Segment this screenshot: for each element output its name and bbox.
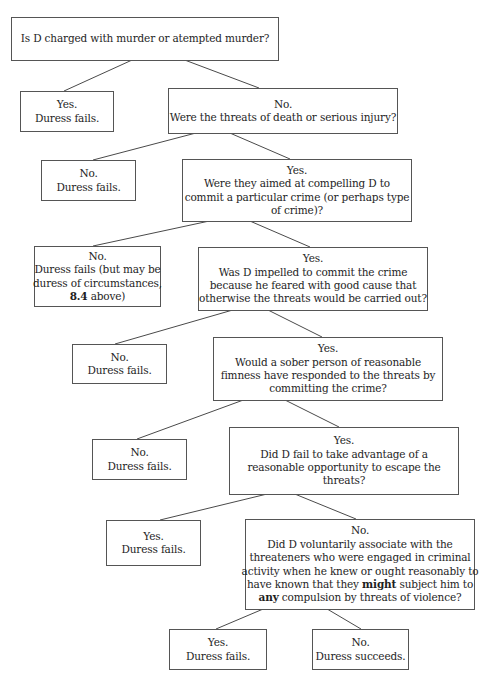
connector-q7-to-q7-yes xyxy=(216,610,262,630)
node-text-line: Were the threats of death or serious inj… xyxy=(170,111,396,124)
node-text-line: Duress fails. xyxy=(56,181,120,194)
node-answer-label: Yes. xyxy=(287,164,307,177)
question-impelled-by-fear: Yes.Was D impelled to commit the crimebe… xyxy=(198,247,428,311)
node-text-line: otherwise the threats would be carried o… xyxy=(199,292,427,305)
node-text-line: commit a particular crime (or perhaps ty… xyxy=(185,191,410,204)
node-answer-label: No. xyxy=(88,250,106,263)
node-text-line: Duress fails. xyxy=(35,112,99,125)
node-text-line: committing the crime? xyxy=(269,382,387,395)
question-voluntary-association: No.Did D voluntarily associate with thet… xyxy=(245,519,475,610)
emphasis-text: any xyxy=(259,591,279,603)
node-text-line: Did D fail to take advantage of a xyxy=(260,448,428,461)
node-text-line: activity when he knew or ought reasonabl… xyxy=(242,565,479,578)
node-answer-label: No. xyxy=(130,446,148,459)
outcome-no-duress-fails: No.Duress fails. xyxy=(92,439,187,480)
node-answer-label: Yes. xyxy=(208,636,228,649)
node-answer-label: No. xyxy=(274,98,292,111)
node-text-line: of crime)? xyxy=(271,204,323,217)
node-text-line: Would a sober person of reasonable xyxy=(235,356,421,369)
node-text-line: have known that they might subject him t… xyxy=(247,578,473,591)
outcome-yes-duress-fails: Yes.Duress fails. xyxy=(169,629,267,670)
connector-q3-to-q3-no xyxy=(93,222,207,247)
node-text-line: any compulsion by threats of violence? xyxy=(259,591,462,604)
question-escape-opportunity: Yes.Did D fail to take advantage of area… xyxy=(229,427,459,495)
connector-q7-to-q7-no xyxy=(328,610,361,630)
node-text-line: Duress fails. xyxy=(107,460,171,473)
node-text-line: Duress fails. xyxy=(121,543,185,556)
node-answer-label: Yes. xyxy=(334,434,354,447)
node-text-line: threateners who were engaged in criminal xyxy=(249,551,470,564)
node-text-line: because he feared with good cause that xyxy=(210,279,416,292)
node-text-line: Duress fails. xyxy=(186,650,250,663)
duress-flowchart: Is D charged with murder or atempted mur… xyxy=(0,0,488,682)
question-particular-crime: Yes.Were they aimed at compelling D toco… xyxy=(182,159,412,222)
connector-q2-to-q2-no xyxy=(93,134,194,161)
outcome-no-duress-succeeds: No.Duress succeeds. xyxy=(312,629,409,670)
outcome-duress-of-circumstances: No.Duress fails (but may beduress of cir… xyxy=(34,246,161,307)
node-text-line: Duress fails (but may be xyxy=(34,263,160,276)
outcome-no-duress-fails: No.Duress fails. xyxy=(72,344,167,384)
connector-q6-to-q7 xyxy=(296,495,356,520)
node-text-line: 8.4 above) xyxy=(70,290,126,303)
node-text-line: Is D charged with murder or atempted mur… xyxy=(21,32,270,45)
node-answer-label: Yes. xyxy=(143,530,163,543)
emphasis-text: might xyxy=(362,578,396,590)
node-answer-label: No. xyxy=(351,524,369,537)
node-answer-label: No. xyxy=(110,351,128,364)
node-text-line: threats? xyxy=(323,474,366,487)
connector-q1-to-q2 xyxy=(186,61,259,89)
node-answer-label: No. xyxy=(351,636,369,649)
node-text-line: Duress succeeds. xyxy=(316,650,406,663)
node-text-line: Did D voluntarily associate with the xyxy=(267,538,452,551)
node-text-line: reasonable opportunity to escape the xyxy=(247,461,440,474)
connector-q1-to-q1-yes xyxy=(64,61,131,92)
question-sober-person-test: Yes.Would a sober person of reasonablefi… xyxy=(213,337,443,401)
connector-q5-to-q6 xyxy=(286,401,339,428)
node-answer-label: Yes. xyxy=(303,252,323,265)
node-text-line: duress of circumstances, xyxy=(33,277,162,290)
question-threats-death-injury: No.Were the threats of death or serious … xyxy=(168,88,398,134)
emphasis-text: 8.4 xyxy=(70,290,88,302)
connector-q3-to-q4 xyxy=(251,222,310,248)
question-murder-charge: Is D charged with murder or atempted mur… xyxy=(11,17,279,61)
node-answer-label: Yes. xyxy=(318,342,338,355)
connector-q2-to-q3 xyxy=(231,134,290,160)
node-answer-label: Yes. xyxy=(57,98,77,111)
connector-q6-to-q6-yes xyxy=(160,495,265,521)
node-text-line: Were they aimed at compelling D to xyxy=(204,177,390,190)
connector-q4-to-q5 xyxy=(269,311,322,338)
node-answer-label: No. xyxy=(79,167,97,180)
node-text-line: fimness have responded to the threats by xyxy=(221,369,436,382)
outcome-yes-duress-fails: Yes.Duress fails. xyxy=(106,520,201,566)
outcome-yes-duress-fails: Yes.Duress fails. xyxy=(20,91,114,132)
outcome-no-duress-fails: No.Duress fails. xyxy=(41,160,136,201)
node-text-line: Duress fails. xyxy=(87,364,151,377)
node-text-line: Was D impelled to commit the crime xyxy=(219,266,408,279)
connector-q5-to-q5-no xyxy=(137,401,242,440)
